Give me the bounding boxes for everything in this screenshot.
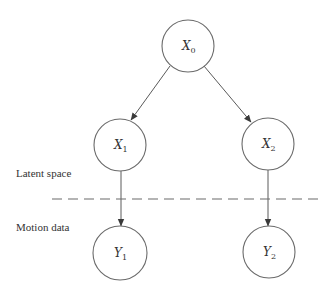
node-x0-main: X [181, 39, 191, 53]
node-x1-main: X [113, 138, 123, 152]
latent-space-label: Latent space [16, 167, 71, 179]
node-x2-main: X [261, 137, 271, 151]
node-x1: X1 [94, 119, 146, 171]
motion-data-label: Motion data [16, 221, 70, 233]
node-x2-sub: 2 [271, 144, 276, 153]
node-x2: X2 [242, 118, 294, 170]
node-y2-sub: 2 [271, 252, 276, 261]
diagram-canvas: X0 X1 X2 Y1 Y2 Latent space Motion data [0, 0, 331, 295]
node-x0: X0 [162, 20, 214, 72]
edge-x0-x2 [204, 66, 251, 122]
node-y2: Y2 [243, 226, 295, 278]
node-x1-sub: 1 [123, 145, 128, 154]
node-y1-sub: 1 [122, 253, 127, 262]
node-x0-sub: 0 [191, 46, 196, 55]
node-y1: Y1 [93, 226, 147, 280]
edge-x0-x1 [131, 66, 170, 120]
